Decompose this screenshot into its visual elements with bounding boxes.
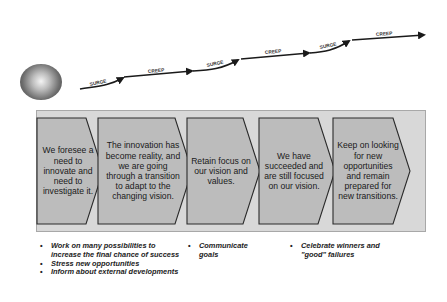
stage-1-text: We foresee a need to innovate and need t…	[39, 120, 97, 222]
stage-5-text: Keep on looking for new opportunities an…	[336, 120, 400, 222]
action-item: Inform about external developments	[40, 268, 180, 277]
actions-column-3: Celebrate winners and "good" failures	[290, 242, 390, 260]
action-item: Celebrate winners and "good" failures	[290, 242, 390, 260]
stage-4-text: We have succeeded and are still focused …	[264, 120, 324, 222]
action-item: Communicate goals	[188, 242, 268, 260]
stage-3-text: Retain focus on our vision and values.	[190, 120, 252, 222]
stage-2-text: The innovation has become reality, and w…	[103, 120, 183, 222]
actions-column-1: Work on many possibilities to increase t…	[40, 242, 180, 277]
action-item: Work on many possibilities to increase t…	[40, 242, 180, 260]
actions-column-2: Communicate goals	[188, 242, 268, 260]
